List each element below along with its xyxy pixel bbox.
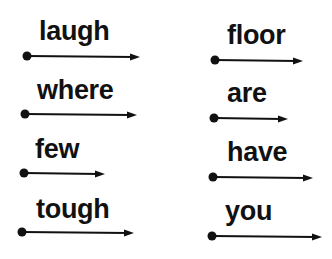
arrow-line <box>27 56 134 57</box>
arrowhead-icon <box>278 116 288 123</box>
tracing-arrows <box>0 0 332 259</box>
tracing-arrow-floor <box>211 56 304 65</box>
tracing-arrow-you <box>208 232 323 241</box>
arrow-line <box>215 60 297 61</box>
arrow-line <box>25 114 131 115</box>
arrowhead-icon <box>293 58 303 65</box>
arrowhead-icon <box>303 175 313 182</box>
start-dot-icon <box>23 52 32 61</box>
arrowhead-icon <box>127 112 137 119</box>
arrow-line <box>24 173 99 174</box>
tracing-arrow-laugh <box>23 52 141 61</box>
arrowhead-icon <box>124 230 134 237</box>
start-dot-icon <box>208 232 217 241</box>
tracing-arrow-few <box>20 169 106 178</box>
arrow-line <box>213 177 307 178</box>
arrowhead-icon <box>95 171 105 178</box>
tracing-arrow-where <box>21 110 138 119</box>
start-dot-icon <box>210 114 219 123</box>
start-dot-icon <box>211 56 220 65</box>
start-dot-icon <box>20 169 29 178</box>
start-dot-icon <box>209 173 218 182</box>
arrowhead-icon <box>312 234 322 241</box>
arrow-line <box>214 118 282 119</box>
arrow-line <box>22 232 128 233</box>
arrowhead-icon <box>130 54 140 61</box>
arrow-line <box>212 236 316 237</box>
start-dot-icon <box>21 110 30 119</box>
tracing-arrow-tough <box>18 228 135 237</box>
tracing-arrow-have <box>209 173 314 182</box>
tracing-arrow-are <box>210 114 289 123</box>
start-dot-icon <box>18 228 27 237</box>
